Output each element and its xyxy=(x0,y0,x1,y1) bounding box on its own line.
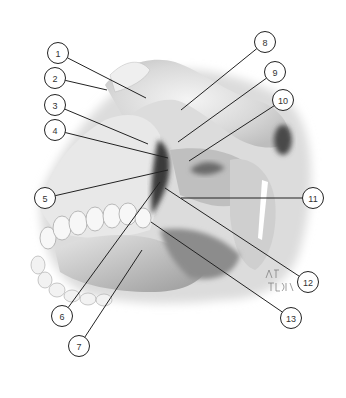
callout-number: 11 xyxy=(308,194,317,204)
callout-number: 9 xyxy=(272,68,277,78)
callout-number: 10 xyxy=(278,96,288,106)
orbit xyxy=(274,125,292,155)
callout-number: 13 xyxy=(286,314,296,324)
skull-illustration xyxy=(31,60,311,306)
callout-number: 3 xyxy=(52,101,57,111)
callout-2: 2 xyxy=(45,68,108,91)
callout-number: 12 xyxy=(303,278,313,288)
callout-number: 1 xyxy=(55,49,60,59)
callout-number: 7 xyxy=(76,342,81,352)
callout-number: 5 xyxy=(42,194,47,204)
leader-line xyxy=(65,80,107,90)
callout-number: 8 xyxy=(262,38,267,48)
callout-number: 4 xyxy=(52,126,57,136)
callout-number: 2 xyxy=(52,74,57,84)
anatomy-figure: 12345678910111213 xyxy=(0,0,346,398)
callout-number: 6 xyxy=(59,312,64,322)
